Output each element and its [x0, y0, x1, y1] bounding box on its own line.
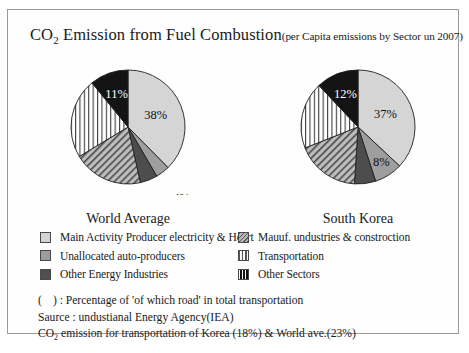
legend-column-left: Main Activity Producer electricity & Hea… — [40, 228, 253, 284]
legend-item: Transportation — [238, 247, 410, 266]
pie-slice-label: 37% — [374, 107, 397, 121]
legend-swatch-other-sectors-icon — [238, 269, 249, 280]
legend-label: Mauuf. undustries & constroction — [258, 231, 410, 243]
legend-item: Main Activity Producer electricity & Hea… — [40, 228, 253, 247]
pie-slice-label: 8% — [373, 155, 390, 169]
legend-item: Mauuf. undustries & constroction — [238, 228, 410, 247]
pie-chart-south-korea: 37%8%6%18%19%12% South Korea — [243, 65, 469, 225]
pie-slice-label: 11% — [105, 87, 127, 101]
pie-world-average-caption: World Average — [13, 211, 243, 227]
pie-south-korea-caption: South Korea — [243, 211, 469, 227]
pie-south-korea-graphic: 37%8%6%18%19%12% — [283, 65, 433, 195]
legend-swatch-manuf-industries-icon — [238, 232, 249, 243]
footnote-source: Saurce : undustianal Energy Agency(IEA) — [38, 310, 458, 327]
legend-swatch-other-energy-icon — [40, 269, 51, 280]
figure-frame: CO2 Emission from Fuel Combustion(per Ca… — [7, 9, 459, 334]
legend-label: Other Sectors — [258, 268, 320, 280]
legend: Main Activity Producer electricity & Hea… — [8, 228, 469, 286]
pie-slice-label: 18% — [292, 194, 315, 195]
pie-slice-label: 12% — [334, 87, 357, 101]
title-main-text: CO2 Emission from Fuel Combustion — [30, 25, 282, 44]
legend-item: Other Energy Industries — [40, 265, 253, 284]
legend-label: Main Activity Producer electricity & Hea… — [60, 231, 253, 243]
legend-label: Unallocated auto-producers — [60, 250, 185, 262]
legend-column-right: Mauuf. undustries & constroction Transpo… — [238, 228, 410, 284]
footnote-paren-definition: () : Percentage of 'of which road' in to… — [38, 293, 458, 310]
legend-label: Transportation — [258, 250, 324, 262]
legend-label: Other Energy Industries — [60, 268, 168, 280]
legend-swatch-unallocated-icon — [40, 250, 51, 261]
legend-swatch-transportation-icon — [238, 250, 249, 261]
footnote-transport-emission: CO2 emission for transportation of Korea… — [38, 326, 458, 347]
footnotes: () : Percentage of 'of which road' in to… — [38, 293, 458, 347]
pie-slice-label: 38% — [144, 108, 167, 122]
legend-item: Other Sectors — [238, 265, 410, 284]
legend-item: Unallocated auto-producers — [40, 247, 253, 266]
pie-world-average-graphic: 38%4%5%20%23%11% — [53, 65, 203, 195]
pie-chart-world-average: 38%4%5%20%23%11% World Average — [13, 65, 243, 225]
charts-container: 38%4%5%20%23%11% World Average 37%8%6%18… — [8, 65, 469, 225]
pie-slice-label: 4% — [173, 191, 190, 195]
title-subtitle-text: (per Capita emissions by Sector un 2007) — [282, 30, 463, 42]
legend-swatch-main-activity-icon — [40, 232, 51, 243]
page-title: CO2 Emission from Fuel Combustion(per Ca… — [30, 25, 463, 46]
